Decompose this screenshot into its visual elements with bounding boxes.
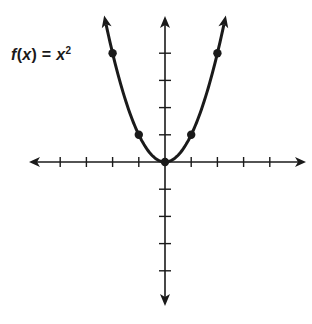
data-point — [213, 49, 221, 57]
data-point — [161, 158, 169, 166]
data-point — [135, 131, 143, 139]
function-label: f(x) = x2 — [11, 45, 71, 64]
equals-sign: = — [37, 46, 56, 63]
data-point — [187, 131, 195, 139]
data-point — [108, 49, 116, 57]
exponent: 2 — [65, 45, 71, 56]
